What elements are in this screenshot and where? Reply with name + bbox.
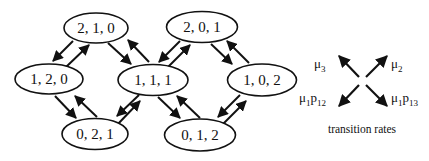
- node-1-2-0: 1, 2, 0: [15, 64, 83, 94]
- label-mu2: μ2: [391, 56, 402, 74]
- edge-102-to-201: [227, 41, 249, 63]
- label-mu1-p13: μ1p13: [391, 90, 418, 108]
- node-2-0-1: 2, 0, 1: [167, 12, 238, 43]
- edge-120-to-210: [66, 45, 89, 67]
- node-label: 0, 2, 1: [76, 126, 114, 142]
- edge-102-to-012: [218, 95, 240, 117]
- arrow-down-left-icon: [339, 85, 359, 106]
- transition-rates-legend: μ3 μ2 μ1p12 μ1p13 transition rates: [299, 56, 418, 135]
- node-label: 0, 1, 2: [181, 127, 219, 143]
- edge-012-to-111: [177, 96, 200, 118]
- arrow-up-right-icon: [366, 56, 387, 77]
- arrow-up-left-icon: [339, 56, 359, 77]
- node-2-1-0: 2, 1, 0: [64, 13, 128, 43]
- edge-111-to-012: [158, 97, 180, 118]
- node-label: 2, 0, 1: [183, 19, 221, 35]
- edge-210-to-120: [53, 41, 73, 61]
- edge-201-to-102: [211, 44, 232, 64]
- edge-021-to-120: [75, 96, 97, 117]
- edge-111-to-210: [128, 40, 149, 62]
- edge-210-to-111: [108, 43, 131, 64]
- arrow-down-right-icon: [366, 85, 387, 106]
- nodes: 2, 1, 0 1, 2, 0 0, 2, 1 1, 1, 1 2, 0, 1 …: [15, 12, 297, 152]
- node-label: 1, 2, 0: [30, 71, 68, 87]
- node-0-2-1: 0, 2, 1: [62, 119, 128, 150]
- node-label: 1, 0, 2: [243, 72, 281, 88]
- node-1-0-2: 1, 0, 2: [228, 64, 297, 96]
- edge-120-to-021: [55, 96, 76, 118]
- state-transition-diagram: 2, 1, 0 1, 2, 0 0, 2, 1 1, 1, 1 2, 0, 1 …: [0, 0, 429, 161]
- legend-caption: transition rates: [328, 123, 397, 135]
- node-label: 1, 1, 1: [134, 72, 172, 88]
- label-mu1-p12: μ1p12: [299, 90, 326, 108]
- node-1-1-1: 1, 1, 1: [118, 65, 188, 96]
- label-mu3: μ3: [314, 56, 326, 74]
- node-0-1-2: 0, 1, 2: [165, 119, 236, 151]
- node-label: 2, 1, 0: [77, 20, 115, 36]
- edge-012-to-102: [223, 101, 246, 124]
